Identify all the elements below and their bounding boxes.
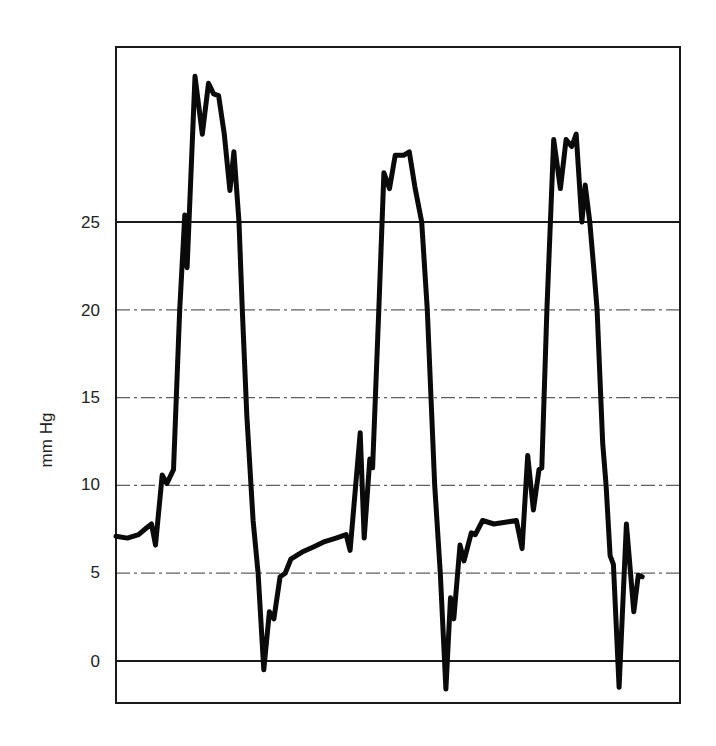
pressure-waveform-chart: 25 20 15 10 5 0 mm Hg bbox=[0, 0, 716, 746]
y-axis-title: mm Hg bbox=[37, 413, 56, 468]
pressure-trace-line bbox=[116, 76, 642, 689]
y-axis-ticks: 25 20 15 10 5 0 bbox=[81, 213, 100, 671]
y-tick-label-5: 5 bbox=[91, 563, 100, 582]
y-tick-label-25: 25 bbox=[81, 213, 100, 232]
y-tick-label-20: 20 bbox=[81, 301, 100, 320]
y-tick-label-15: 15 bbox=[81, 388, 100, 407]
y-tick-label-10: 10 bbox=[81, 475, 100, 494]
y-tick-label-0: 0 bbox=[91, 652, 100, 671]
plot-frame bbox=[116, 47, 680, 703]
